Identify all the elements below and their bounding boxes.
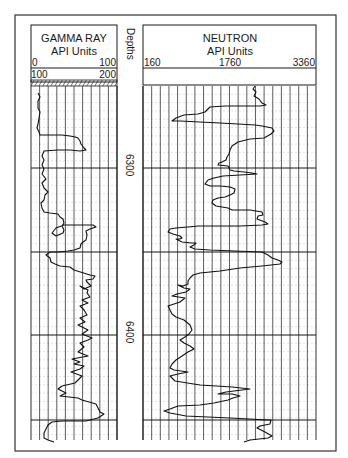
neutron-scale-mid: 1760 xyxy=(219,57,242,68)
neutron-title: NEUTRON xyxy=(203,32,257,44)
gamma-scale-min: 0 xyxy=(32,57,38,68)
depths-label: Depths xyxy=(125,28,136,60)
gamma-ray-title: GAMMA RAY xyxy=(41,32,107,44)
gamma-ray-curve xyxy=(37,93,104,442)
neutron-units: API Units xyxy=(207,45,253,57)
gamma-ray-units: API Units xyxy=(51,45,97,57)
gamma-ray-grid xyxy=(31,86,117,440)
neutron-scale-max: 3360 xyxy=(293,57,316,68)
neutron-header: NEUTRON API Units 160 1760 3360 xyxy=(143,25,316,85)
gamma-ray-header: GAMMA RAY API Units 0 100 100 200 xyxy=(31,25,117,86)
depth-label-6300: 6300 xyxy=(124,154,135,177)
gamma-backup-scale-max: 200 xyxy=(99,69,116,80)
neutron-scale-min: 160 xyxy=(144,57,161,68)
depth-label-6400: 6400 xyxy=(124,321,135,344)
hatched-scale-bar xyxy=(31,80,117,86)
gamma-backup-scale-min: 100 xyxy=(31,69,48,80)
gamma-scale-max: 100 xyxy=(99,57,116,68)
depth-labels: 63006400 xyxy=(124,154,135,344)
well-log-chart: GAMMA RAY API Units 0 100 100 200 Depths… xyxy=(0,0,348,458)
